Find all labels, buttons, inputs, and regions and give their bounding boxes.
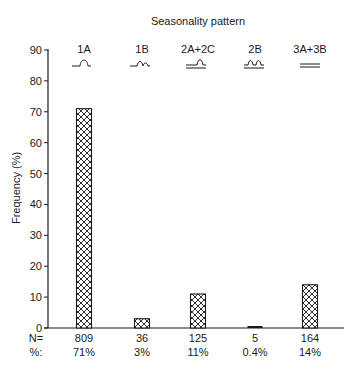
- count-value: 5: [252, 332, 258, 344]
- category-labels: 1A1B2A+2C2B3A+3B: [77, 43, 326, 55]
- y-tick-label: 10: [30, 291, 42, 303]
- percent-value: 14%: [299, 346, 321, 358]
- count-value: 164: [301, 332, 319, 344]
- category-label: 3A+3B: [293, 43, 326, 55]
- bar-3a-3b: [303, 285, 318, 328]
- pct-label: %:: [30, 346, 43, 358]
- y-tick-label: 80: [30, 75, 42, 87]
- y-tick-label: 40: [30, 198, 42, 210]
- count-labels: 80971%363%12511%50.4%16414%: [73, 332, 321, 358]
- chart-canvas: Seasonality pattern Frequency (%) 010203…: [0, 0, 348, 376]
- n-label: N=: [29, 332, 43, 344]
- y-tick-label: 90: [30, 44, 42, 56]
- y-tick-label: 50: [30, 168, 42, 180]
- chart-title: Seasonality pattern: [151, 15, 245, 27]
- category-label: 1A: [77, 43, 91, 55]
- bar-1b: [135, 319, 150, 328]
- raised-baseline-single-peak-icon: [186, 60, 206, 68]
- count-value: 125: [189, 332, 207, 344]
- percent-value: 0.4%: [242, 346, 267, 358]
- percent-value: 3%: [134, 346, 150, 358]
- percent-value: 71%: [73, 346, 95, 358]
- flat-double-line-icon: [300, 64, 320, 67]
- y-axis-label: Frequency (%): [10, 152, 22, 224]
- y-tick-label: 20: [30, 260, 42, 272]
- bar-1a: [77, 109, 92, 328]
- y-tick-label: 30: [30, 229, 42, 241]
- seasonality-chart: Seasonality pattern Frequency (%) 010203…: [0, 0, 348, 376]
- bars: [77, 109, 318, 328]
- y-tick-label: 60: [30, 137, 42, 149]
- percent-value: 11%: [187, 346, 208, 358]
- category-label: 2A+2C: [181, 43, 215, 55]
- bar-2a-2c: [191, 294, 206, 328]
- y-tick-label: 70: [30, 106, 42, 118]
- bar-2b: [248, 326, 263, 328]
- count-value: 36: [136, 332, 148, 344]
- y-ticks: 0102030405060708090: [30, 44, 48, 334]
- single-peak-icon: [72, 60, 91, 66]
- double-peak-icon: [244, 61, 264, 69]
- pattern-glyphs: [72, 60, 320, 68]
- category-label: 2B: [248, 43, 261, 55]
- count-value: 809: [75, 332, 93, 344]
- peak-with-small-second-peak-icon: [130, 62, 150, 67]
- category-label: 1B: [135, 43, 148, 55]
